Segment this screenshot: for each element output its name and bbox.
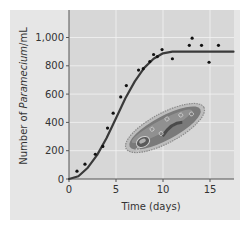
data-point — [106, 126, 109, 129]
x-tick-label: 5 — [113, 184, 119, 195]
y-tick-label: 1,000 — [35, 32, 64, 43]
data-point — [207, 61, 210, 64]
data-point — [191, 37, 194, 40]
data-point — [160, 48, 163, 51]
y-axis-title-part-3: /mL — [18, 27, 29, 46]
data-point — [200, 44, 203, 47]
x-tick-label: 0 — [66, 184, 72, 195]
x-tick-label: 10 — [157, 184, 170, 195]
data-point — [148, 60, 151, 63]
y-axis-title-part-1: Number of — [18, 109, 29, 165]
y-tick-label: 600 — [45, 89, 64, 100]
y-tick-label: 800 — [45, 60, 64, 71]
data-point — [137, 68, 140, 71]
data-point — [112, 112, 115, 115]
y-tick-label: 200 — [45, 145, 64, 156]
data-point — [119, 95, 122, 98]
y-tick-label: 400 — [45, 117, 64, 128]
data-point — [217, 44, 220, 47]
data-point — [171, 57, 174, 60]
data-point — [125, 84, 128, 87]
data-point — [94, 153, 97, 156]
data-point — [101, 145, 104, 148]
y-axis-title: Number of Paramecium/mL — [18, 27, 29, 165]
y-axis-title-species: Paramecium — [18, 46, 29, 109]
data-point — [188, 44, 191, 47]
data-point — [156, 55, 159, 58]
y-tick-label: 0 — [58, 174, 64, 185]
data-point — [152, 53, 155, 56]
data-point — [83, 163, 86, 166]
data-point — [75, 170, 78, 173]
x-axis-title: Time (days) — [120, 201, 180, 212]
paramecium-growth-chart: 02004006008001,000051015 Time (days) Num… — [0, 0, 242, 229]
data-point — [142, 67, 145, 70]
x-tick-label: 15 — [204, 184, 217, 195]
